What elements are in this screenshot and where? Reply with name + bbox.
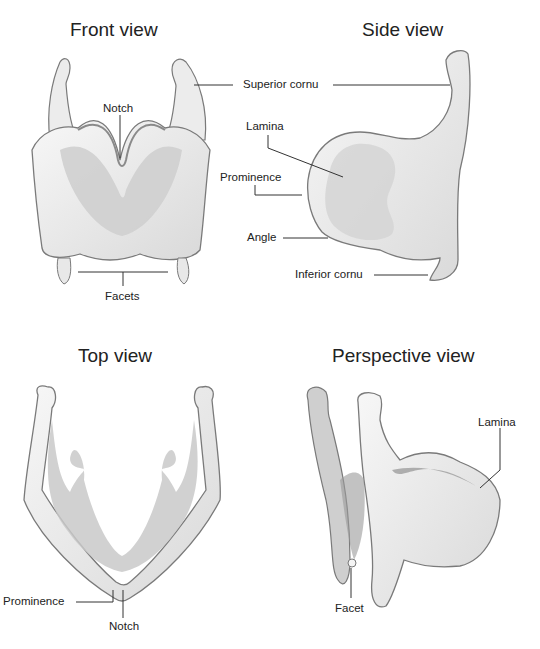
label-notch-top: Notch (109, 620, 139, 632)
label-lamina-perspective: Lamina (478, 416, 516, 428)
label-facets: Facets (105, 290, 140, 302)
thyroid-cartilage-illustration (0, 0, 540, 649)
label-superior-cornu: Superior cornu (243, 78, 318, 90)
top-view-drawing (24, 386, 220, 618)
label-lamina-side: Lamina (246, 120, 284, 132)
perspective-view-drawing (307, 387, 500, 607)
front-view-drawing (32, 59, 233, 286)
top-view-title: Top view (78, 345, 152, 367)
label-prominence-top: Prominence (3, 595, 64, 607)
side-view-title: Side view (362, 19, 443, 41)
front-view-title: Front view (70, 19, 158, 41)
perspective-view-title: Perspective view (332, 345, 475, 367)
label-notch-front: Notch (103, 102, 133, 114)
label-angle: Angle (247, 231, 276, 243)
label-inferior-cornu: Inferior cornu (295, 268, 363, 280)
label-prominence-side: Prominence (220, 171, 281, 183)
label-facet: Facet (335, 602, 364, 614)
